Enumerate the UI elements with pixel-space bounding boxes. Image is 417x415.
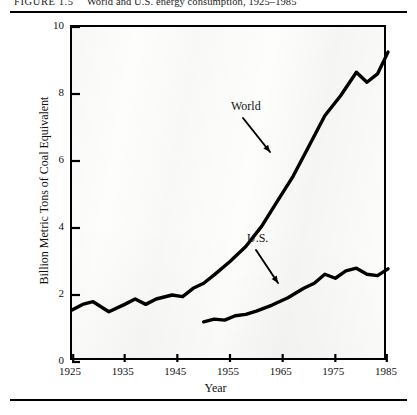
x-axis-title-text: Year xyxy=(204,381,226,395)
series-annotation-us: U.S. xyxy=(247,231,268,246)
figure-caption: FIGURE 1.5World and U.S. energy consumpt… xyxy=(14,0,404,10)
x-axis-tick-label: 1925 xyxy=(50,366,90,377)
x-axis-tick-label: 1955 xyxy=(208,366,248,377)
x-axis-tick-label: 1965 xyxy=(261,366,301,377)
x-axis-ticks xyxy=(73,354,387,362)
x-axis-tick-labels: 1925193519451955196519751985 xyxy=(0,366,417,382)
y-axis-ticks xyxy=(72,27,80,362)
x-axis-tick-label: 1985 xyxy=(366,366,406,377)
x-axis-tick-label: 1945 xyxy=(155,366,195,377)
x-axis-title: Year xyxy=(0,381,417,396)
rule-top xyxy=(10,11,407,13)
x-axis-tick-label: 1935 xyxy=(103,366,143,377)
plot-canvas xyxy=(72,27,388,362)
figure-caption-text: World and U.S. energy consumption, 1925–… xyxy=(87,0,297,7)
y-axis-tick-label: 10 xyxy=(42,20,64,31)
annotation-arrows xyxy=(243,118,278,283)
rule-bottom xyxy=(10,399,407,401)
y-axis-title: Billion Metric Tons of Coal Equivalent xyxy=(37,51,52,331)
y-axis-tick-label: 0 xyxy=(42,355,64,366)
series-annotation-world: World xyxy=(231,99,261,114)
plot-frame xyxy=(70,25,386,360)
x-axis-tick-label: 1975 xyxy=(313,366,353,377)
series-lines xyxy=(72,52,388,322)
